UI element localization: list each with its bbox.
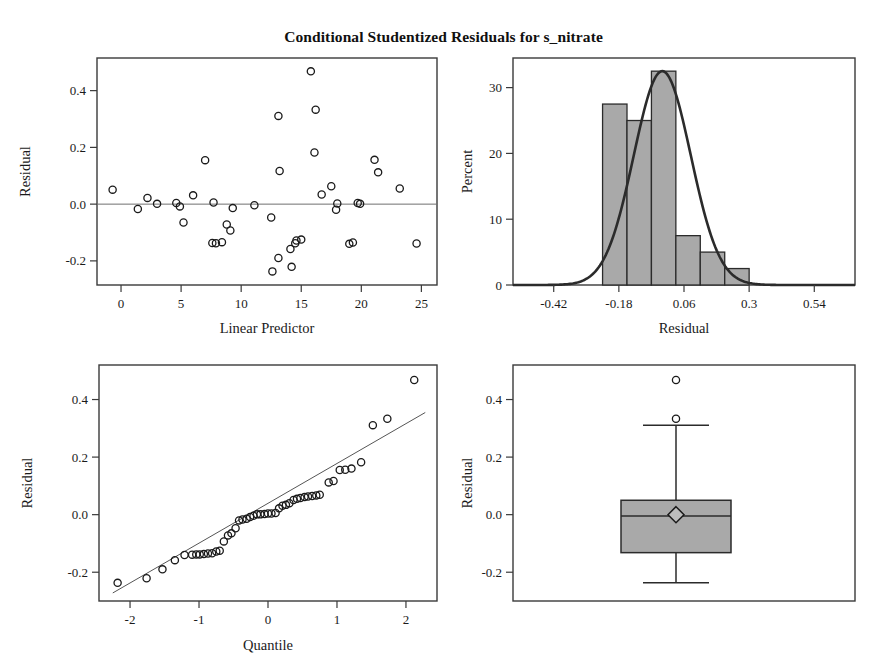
data-point [375, 169, 382, 176]
data-point [143, 575, 150, 582]
data-point [311, 149, 318, 156]
data-point [181, 551, 188, 558]
data-point [298, 236, 305, 243]
data-point [109, 186, 116, 193]
data-point [229, 205, 236, 212]
y-tick-label: -0.2 [481, 565, 502, 580]
outlier-points [672, 376, 679, 422]
y-tick-label: 10 [489, 212, 502, 227]
x-tick-label: -2 [125, 612, 136, 627]
histogram-bar [651, 71, 675, 285]
x-tick-label: -1 [194, 612, 205, 627]
y-tick-label: 0.2 [72, 450, 88, 465]
x-tick-label: 25 [415, 296, 428, 311]
chart-residual-histogram: 0102030-0.42-0.180.060.30.54ResidualPerc… [450, 45, 887, 355]
data-point [328, 183, 335, 190]
data-point [288, 263, 295, 270]
x-tick-label: -0.18 [605, 296, 632, 311]
data-point [227, 227, 234, 234]
outlier-point [672, 415, 679, 422]
data-point [269, 268, 276, 275]
x-tick-label: 20 [355, 296, 368, 311]
x-tick-label: 10 [235, 296, 248, 311]
x-tick-label: -0.42 [540, 296, 567, 311]
y-axis-title: Residual [19, 458, 35, 509]
data-point [210, 199, 217, 206]
residual-diagnostics-panel: Conditional Studentized Residuals for s_… [0, 0, 887, 672]
data-point [144, 194, 151, 201]
data-point [159, 566, 166, 573]
x-tick-label: 0 [118, 296, 125, 311]
x-tick-label: 0.06 [673, 296, 696, 311]
chart-residual-boxplot: -0.20.00.20.4Residual [450, 355, 887, 672]
data-point [325, 479, 332, 486]
x-tick-label: 0.54 [803, 296, 826, 311]
histogram-bar [676, 236, 700, 285]
x-tick-label: 5 [178, 296, 185, 311]
y-tick-label: -0.2 [67, 565, 88, 580]
y-axis-title: Residual [17, 146, 33, 197]
y-tick-label: 0.2 [70, 140, 86, 155]
data-point [275, 254, 282, 261]
x-tick-label: 0 [265, 612, 272, 627]
x-tick-label: 15 [295, 296, 308, 311]
plot-frame [513, 365, 855, 601]
page-title: Conditional Studentized Residuals for s_… [0, 28, 887, 46]
qq-reference-line [113, 412, 425, 592]
data-point [312, 106, 319, 113]
data-point [232, 525, 239, 532]
data-point [307, 68, 314, 75]
y-tick-label: 0.0 [486, 507, 502, 522]
data-point [369, 422, 376, 429]
histogram-bar [627, 121, 651, 285]
x-tick-label: 1 [334, 612, 341, 627]
data-point [371, 156, 378, 163]
y-tick-label: 0.2 [486, 450, 502, 465]
plot-frame [99, 365, 437, 601]
histogram-bar [603, 104, 627, 285]
box-plot-glyph [621, 425, 731, 583]
x-axis-title: Linear Predictor [220, 320, 315, 336]
y-tick-label: -0.2 [65, 253, 86, 268]
y-tick-label: 0 [496, 278, 503, 293]
data-point [180, 219, 187, 226]
chart-residual-qq-plot: -0.20.00.20.4-2-1012QuantileResidual [0, 355, 450, 672]
x-axis-title: Quantile [243, 637, 293, 653]
data-point [275, 112, 282, 119]
chart-residual-vs-linear-predictor: -0.20.00.20.40510152025Linear PredictorR… [0, 45, 450, 355]
y-axis-title: Residual [459, 458, 475, 509]
x-axis-title: Residual [659, 320, 710, 336]
y-axis-title: Percent [459, 150, 475, 193]
y-tick-label: 0.0 [70, 197, 86, 212]
plot-frame [97, 58, 437, 285]
y-tick-label: 30 [489, 80, 502, 95]
data-point [384, 415, 391, 422]
outlier-point [672, 376, 679, 383]
data-point [190, 192, 197, 199]
y-tick-label: 0.0 [72, 507, 88, 522]
data-point [396, 185, 403, 192]
data-point [134, 205, 141, 212]
data-point [202, 157, 209, 164]
histogram-bars [603, 71, 750, 285]
data-point [330, 477, 337, 484]
data-point [268, 214, 275, 221]
y-tick-label: 0.4 [486, 392, 503, 407]
data-point [318, 191, 325, 198]
data-point [358, 459, 365, 466]
x-tick-label: 0.3 [741, 296, 757, 311]
qq-points [114, 376, 418, 586]
data-point [413, 240, 420, 247]
data-point [276, 167, 283, 174]
x-tick-label: 2 [403, 612, 410, 627]
y-tick-label: 20 [489, 146, 502, 161]
data-point [251, 202, 258, 209]
data-point [114, 579, 121, 586]
data-point [411, 376, 418, 383]
y-tick-label: 0.4 [70, 83, 87, 98]
y-tick-label: 0.4 [72, 392, 89, 407]
scatter-points [109, 68, 420, 275]
